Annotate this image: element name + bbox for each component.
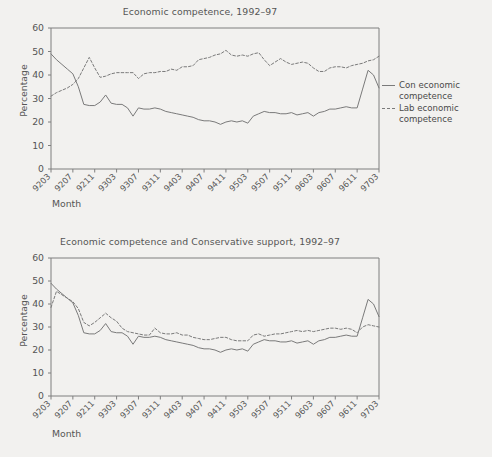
- svg-text:40: 40: [32, 69, 44, 80]
- solid-line-swatch-icon: [382, 80, 396, 90]
- svg-text:9507: 9507: [249, 171, 271, 193]
- svg-text:60: 60: [32, 22, 44, 33]
- figure-container: Economic competence, 1992–97 Percentage …: [0, 0, 492, 457]
- svg-text:9611: 9611: [337, 171, 359, 193]
- svg-text:60: 60: [32, 252, 44, 263]
- svg-text:9407: 9407: [183, 398, 205, 420]
- svg-text:9407: 9407: [183, 171, 205, 193]
- legend-top: Con economic competenceLab economic comp…: [382, 80, 460, 126]
- legend-item-label: Lab economic competence: [399, 103, 459, 124]
- svg-text:9611: 9611: [337, 398, 359, 420]
- svg-text:9411: 9411: [205, 398, 227, 420]
- svg-text:9403: 9403: [162, 171, 184, 193]
- svg-text:9503: 9503: [227, 171, 249, 193]
- svg-text:30: 30: [32, 93, 44, 104]
- chart-panel-top: Economic competence, 1992–97 Percentage …: [0, 0, 492, 230]
- chart-panel-bottom: Economic competence and Conservative sup…: [0, 230, 492, 457]
- svg-text:9411: 9411: [205, 171, 227, 193]
- svg-text:9311: 9311: [140, 171, 162, 193]
- svg-text:10: 10: [32, 367, 44, 378]
- svg-text:20: 20: [32, 344, 44, 355]
- svg-text:9703: 9703: [358, 171, 380, 193]
- svg-text:9603: 9603: [293, 398, 315, 420]
- svg-text:9703: 9703: [358, 398, 380, 420]
- svg-text:9303: 9303: [96, 398, 118, 420]
- svg-text:9511: 9511: [271, 171, 293, 193]
- svg-text:9511: 9511: [271, 398, 293, 420]
- plot-area-bottom: 0102030405060920392079211930393079311940…: [0, 230, 400, 457]
- svg-text:9507: 9507: [249, 398, 271, 420]
- svg-text:9307: 9307: [118, 171, 140, 193]
- svg-text:9311: 9311: [140, 398, 162, 420]
- svg-text:9207: 9207: [52, 171, 74, 193]
- legend-item: Lab economic competence: [382, 103, 460, 124]
- svg-text:10: 10: [32, 140, 44, 151]
- svg-text:20: 20: [32, 116, 44, 127]
- svg-text:9203: 9203: [30, 171, 52, 193]
- svg-text:9303: 9303: [96, 171, 118, 193]
- svg-text:9607: 9607: [315, 171, 337, 193]
- svg-text:9211: 9211: [74, 398, 96, 420]
- svg-text:9207: 9207: [52, 398, 74, 420]
- svg-text:9607: 9607: [315, 398, 337, 420]
- svg-text:9403: 9403: [162, 398, 184, 420]
- svg-text:50: 50: [32, 275, 44, 286]
- svg-text:30: 30: [32, 321, 44, 332]
- legend-item-label: Con economic competence: [399, 80, 460, 101]
- dashed-line-swatch-icon: [382, 103, 396, 113]
- plot-area-top: 0102030405060920392079211930393079311940…: [0, 0, 400, 230]
- svg-text:9307: 9307: [118, 398, 140, 420]
- svg-text:9203: 9203: [30, 398, 52, 420]
- svg-text:50: 50: [32, 46, 44, 57]
- legend-item: Con economic competence: [382, 80, 460, 101]
- svg-text:9603: 9603: [293, 171, 315, 193]
- svg-text:40: 40: [32, 298, 44, 309]
- svg-text:9503: 9503: [227, 398, 249, 420]
- svg-text:9211: 9211: [74, 171, 96, 193]
